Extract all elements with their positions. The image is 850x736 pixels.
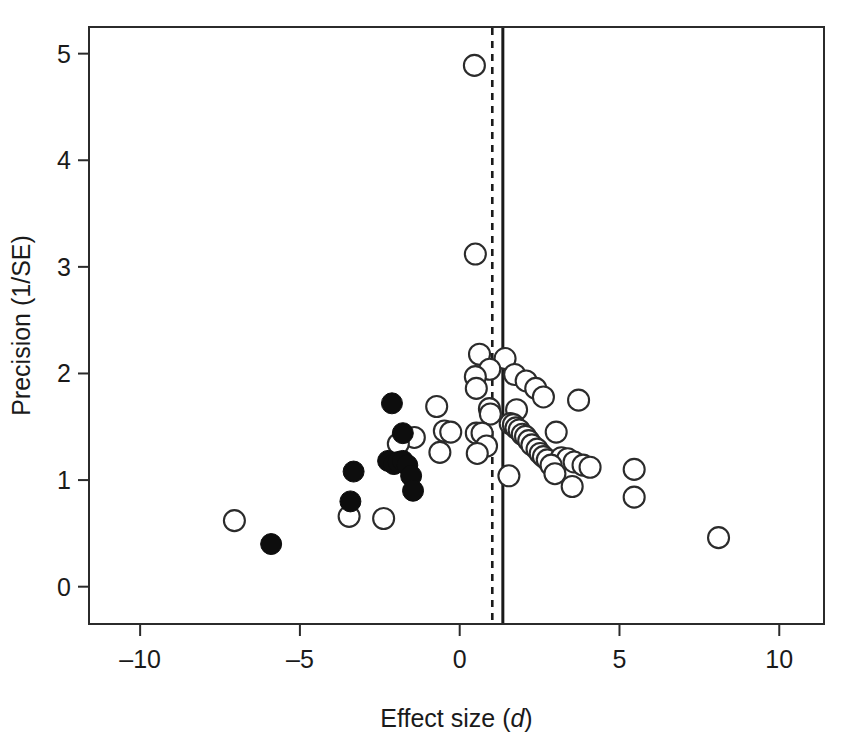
data-point-open	[498, 465, 519, 486]
data-point-filled	[392, 423, 413, 444]
y-tick-label: 0	[57, 573, 71, 601]
data-point-open	[580, 457, 601, 478]
y-axis-title: Precision (1/SE)	[7, 235, 35, 416]
y-tick-label: 4	[57, 146, 71, 174]
data-point-open	[429, 442, 450, 463]
y-tick-label: 1	[57, 466, 71, 494]
data-point-open	[562, 476, 583, 497]
data-point-open	[480, 403, 501, 424]
x-tick-label: 5	[613, 645, 627, 673]
data-point-open	[465, 244, 486, 265]
x-tick-label: 0	[453, 645, 467, 673]
data-point-open	[568, 390, 589, 411]
scatter-plot-canvas: 012345–10–50510Precision (1/SE)Effect si…	[0, 0, 850, 736]
x-axis: –10–50510	[119, 624, 793, 673]
data-point-filled	[381, 393, 402, 414]
data-point-filled	[343, 461, 364, 482]
data-point-filled	[261, 534, 282, 555]
x-axis-title: Effect size (d)	[380, 704, 532, 732]
data-point-open	[373, 508, 394, 529]
data-point-open	[224, 510, 245, 531]
data-point-open	[624, 487, 645, 508]
data-point-open	[546, 422, 567, 443]
data-point-filled	[403, 480, 424, 501]
data-point-open	[467, 443, 488, 464]
y-tick-label: 3	[57, 253, 71, 281]
reference-lines	[492, 28, 503, 623]
x-tick-label: 10	[765, 645, 793, 673]
data-point-open	[466, 378, 487, 399]
data-point-open	[464, 55, 485, 76]
series-open-circles	[224, 55, 729, 548]
data-point-filled	[340, 491, 361, 512]
data-point-open	[533, 386, 554, 407]
data-point-open	[440, 422, 461, 443]
y-tick-label: 2	[57, 359, 71, 387]
data-point-open	[426, 396, 447, 417]
x-tick-label: –10	[119, 645, 161, 673]
series-filled-circles	[261, 393, 424, 555]
y-axis: 012345	[57, 40, 89, 601]
data-point-open	[708, 527, 729, 548]
y-tick-label: 5	[57, 40, 71, 68]
x-tick-label: –5	[286, 645, 314, 673]
data-point-open	[624, 459, 645, 480]
funnel-plot-figure: 012345–10–50510Precision (1/SE)Effect si…	[0, 0, 850, 736]
